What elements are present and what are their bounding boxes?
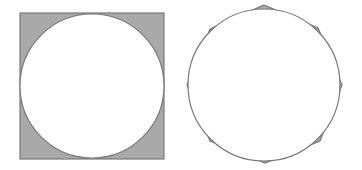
diagram-canvas bbox=[0, 0, 362, 170]
inscribed-circle-left bbox=[20, 14, 164, 158]
inscribed-circle-right bbox=[188, 9, 340, 161]
octagon-figure bbox=[187, 5, 342, 163]
square-figure bbox=[20, 13, 164, 159]
